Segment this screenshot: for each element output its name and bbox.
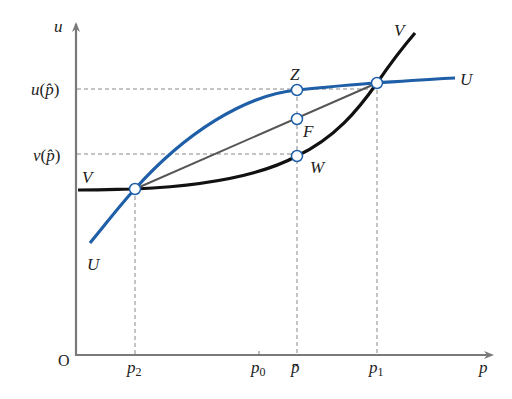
point-z-label: Z xyxy=(290,65,300,84)
x-label-p0: p0 xyxy=(250,358,266,379)
u-curve xyxy=(90,78,455,243)
v-curve-label-left: V xyxy=(82,168,95,187)
u-curve-label-right: U xyxy=(460,70,474,89)
intersection-right xyxy=(372,78,383,89)
y-label-u-phat: u(p̂) xyxy=(31,80,59,99)
point-f-label: F xyxy=(302,122,314,141)
x-axis-label: p xyxy=(478,358,488,377)
point-f xyxy=(292,114,303,125)
x-label-p2: p2 xyxy=(126,358,142,379)
x-label-p1: p1 xyxy=(368,358,384,379)
x-label-pbar: p̄ xyxy=(290,358,300,377)
utility-diagram: u p O u(p̂) v(p̂) p2 p0 p̄ p1 V V U U Z … xyxy=(0,0,512,399)
intersection-left xyxy=(130,184,141,195)
point-w-label: W xyxy=(310,158,326,177)
point-z xyxy=(292,85,303,96)
y-label-v-phat: v(p̂) xyxy=(33,146,60,165)
y-axis-label: u xyxy=(54,17,63,36)
origin-label: O xyxy=(58,352,70,369)
v-curve-label-right: V xyxy=(394,21,407,40)
point-w xyxy=(292,151,303,162)
v-curve xyxy=(78,33,415,190)
guide-lines xyxy=(77,83,377,355)
u-curve-label-left: U xyxy=(87,255,101,274)
